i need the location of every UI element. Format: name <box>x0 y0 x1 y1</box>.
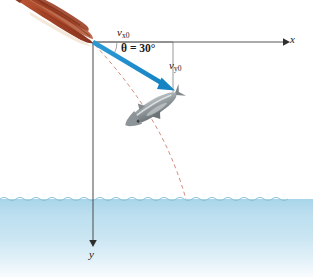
squid <box>0 0 93 46</box>
label-vy0: vy0 <box>169 60 181 72</box>
angle-arc <box>114 42 117 54</box>
fish <box>119 80 189 137</box>
water-region <box>0 197 313 277</box>
label-y-axis: y <box>89 249 94 260</box>
figure-canvas <box>0 0 313 277</box>
label-vy0-subscript: y0 <box>174 64 181 73</box>
label-vx0: vx0 <box>117 27 129 39</box>
label-vx0-subscript: x0 <box>122 31 129 40</box>
physics-figure: vx0 vy0 θ = 30° x y <box>0 0 313 277</box>
label-x-axis: x <box>290 34 295 45</box>
label-angle: θ = 30° <box>121 43 155 55</box>
